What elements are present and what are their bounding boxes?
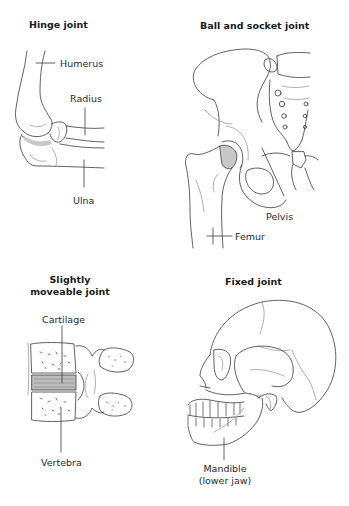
femur-label: Femur	[235, 231, 265, 242]
joints-illustration	[0, 0, 349, 506]
ulna-label: Ulna	[73, 195, 94, 206]
vertebra-label: Vertebra	[41, 457, 82, 468]
ball-socket-joint-drawing	[185, 49, 318, 248]
hinge-joint-title: Hinge joint	[29, 19, 88, 30]
slightly-moveable-joint-title: Slightly moveable joint	[20, 274, 120, 298]
fixed-joint-title: Fixed joint	[225, 276, 282, 287]
hinge-joint-drawing	[15, 51, 104, 187]
fixed-joint-drawing	[188, 300, 336, 460]
title-line-1: Slightly	[20, 274, 120, 286]
cartilage-label: Cartilage	[42, 314, 85, 325]
pelvis-label: Pelvis	[266, 211, 293, 222]
mandible-label: Mandible (lower jaw)	[190, 463, 260, 487]
mandible-label-line-1: Mandible	[190, 463, 260, 475]
radius-label: Radius	[70, 93, 102, 104]
ball-socket-joint-title: Ball and socket joint	[200, 20, 309, 31]
title-line-2: moveable joint	[20, 286, 120, 298]
mandible-label-line-2: (lower jaw)	[190, 475, 260, 487]
slightly-moveable-joint-drawing	[28, 326, 134, 452]
humerus-label: Humerus	[60, 58, 103, 69]
